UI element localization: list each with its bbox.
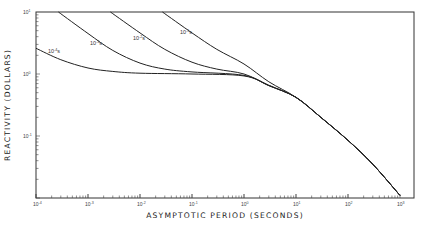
x-tick-label: 10-2 <box>137 201 146 207</box>
x-tick-label: 103 <box>397 201 405 207</box>
x-tick-label: 102 <box>345 201 353 207</box>
y-tick-label: 100 <box>23 71 31 77</box>
y-tick-label: 10-1 <box>23 133 32 139</box>
x-tick-label: 100 <box>241 201 249 207</box>
reactivity-period-chart: 10-410-310-210-1100101102103 10110010-1 … <box>0 0 435 229</box>
x-tick-label: 10-3 <box>85 201 94 207</box>
y-tick-label: 101 <box>23 9 31 15</box>
y-tick-labels: 10110010-1 <box>23 9 32 139</box>
x-tick-label: 101 <box>293 201 301 207</box>
x-tick-label: 10-4 <box>33 201 42 207</box>
x-axis-title: ASYMPTOTIC PERIOD (SECONDS) <box>146 211 304 220</box>
y-axis-title: REACTIVITY (DOLLARS) <box>3 49 12 161</box>
x-tick-label: 10-1 <box>189 201 198 207</box>
